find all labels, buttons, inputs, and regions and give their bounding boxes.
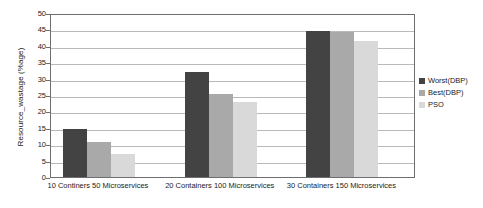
y-tick-mark — [46, 129, 50, 130]
y-tick-mark — [46, 63, 50, 64]
y-tick-label: 0 — [22, 174, 46, 182]
legend-label: Best(DBP) — [428, 88, 463, 97]
bar — [330, 32, 354, 177]
y-tick-label: 10 — [22, 141, 46, 149]
bar — [306, 31, 330, 177]
y-tick-mark — [46, 178, 50, 179]
y-tick-mark — [46, 30, 50, 31]
y-tick-mark — [46, 112, 50, 113]
legend-item[interactable]: Worst(DBP) — [419, 75, 483, 86]
y-tick-label: 45 — [22, 26, 46, 34]
y-tick-label: 50 — [22, 10, 46, 18]
y-tick-label: 30 — [22, 76, 46, 84]
bars-layer — [51, 15, 414, 177]
x-category-label: 10 Continers 50 Microservices — [48, 181, 149, 191]
y-tick-label: 20 — [22, 108, 46, 116]
y-tick-label: 5 — [22, 158, 46, 166]
y-tick-mark — [46, 14, 50, 15]
x-category-label: 30 Containers 150 Microservices — [287, 181, 396, 191]
y-tick-label: 25 — [22, 92, 46, 100]
bar-chart: Resource_wastage (%age) 0510152025303540… — [0, 0, 483, 208]
y-tick-label: 35 — [22, 59, 46, 67]
bar — [233, 102, 257, 177]
legend-swatch-icon — [419, 90, 425, 96]
x-axis-category-labels: 10 Continers 50 Microservices20 Containe… — [50, 181, 415, 195]
y-tick-label: 40 — [22, 43, 46, 51]
y-axis-tick-labels: 05101520253035404550 — [22, 0, 46, 208]
y-tick-label: 15 — [22, 125, 46, 133]
bar — [185, 72, 209, 177]
y-tick-mark — [46, 162, 50, 163]
legend-item[interactable]: Best(DBP) — [419, 87, 483, 98]
plot-area — [50, 14, 415, 178]
bar — [111, 154, 135, 177]
bar — [354, 41, 378, 177]
legend-label: Worst(DBP) — [428, 76, 468, 85]
y-tick-mark — [46, 47, 50, 48]
bar — [63, 129, 87, 177]
y-tick-mark — [46, 80, 50, 81]
x-category-label: 20 Containers 100 Microservices — [165, 181, 274, 191]
legend-swatch-icon — [419, 78, 425, 84]
legend: Worst(DBP)Best(DBP)PSO — [419, 75, 483, 111]
legend-item[interactable]: PSO — [419, 99, 483, 110]
legend-label: PSO — [428, 100, 444, 109]
bar — [209, 94, 233, 177]
bar — [87, 142, 111, 177]
legend-swatch-icon — [419, 102, 425, 108]
y-tick-mark — [46, 145, 50, 146]
y-tick-mark — [46, 96, 50, 97]
